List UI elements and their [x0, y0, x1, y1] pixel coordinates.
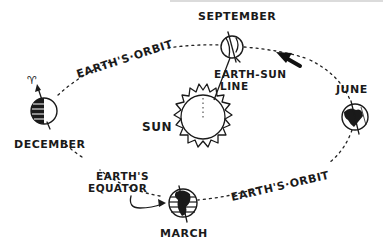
label-sun: SUN — [142, 120, 172, 134]
label-december: DECEMBER — [14, 138, 86, 151]
sun-icon — [174, 84, 232, 147]
label-september: SEPTEMBER — [198, 10, 276, 23]
label-earth-sun-line-1: EARTH-SUN — [214, 68, 287, 80]
label-june: JUNE — [335, 83, 368, 96]
earth-june-icon — [342, 101, 368, 134]
orbit-direction-arrow-icon — [276, 52, 300, 66]
label-earth-sun-line-2: LINE — [220, 80, 249, 92]
equator-pointer-arrow-icon — [130, 196, 166, 208]
earth-orbit-diagram: EARTH'S·ORBIT EARTH'S·ORBIT SEPTEMBER EA… — [0, 0, 383, 247]
earth-september-icon — [221, 32, 243, 62]
orbit-label-bottom: EARTH'S·ORBIT — [230, 169, 331, 204]
label-march: MARCH — [160, 227, 208, 240]
orbit-label-top: EARTH'S·ORBIT — [75, 37, 175, 80]
earth-march-icon — [169, 186, 197, 222]
label-equator-2: EQUATOR — [88, 182, 147, 194]
label-equator-1: EARTH'S — [96, 170, 149, 182]
earth-december-icon — [31, 98, 57, 129]
label-north-symbol: ♈ — [27, 74, 37, 87]
